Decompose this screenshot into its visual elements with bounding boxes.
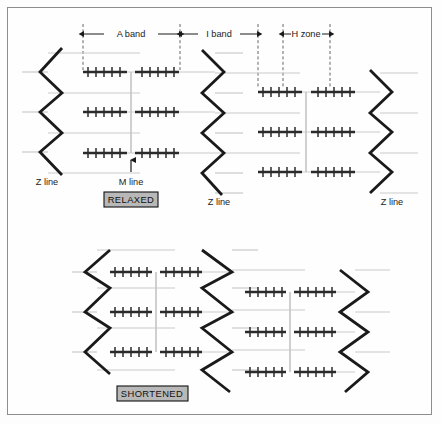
z-line-left-label: Z line	[36, 177, 58, 187]
state-badge-shortened: SHORTENED	[117, 386, 188, 401]
shortened-actin-s2	[232, 270, 390, 372]
z-line-right-shortened	[340, 270, 368, 392]
z-line-middle-label: Z line	[208, 197, 230, 207]
h-zone-label: H zone	[291, 29, 320, 39]
state-badge-relaxed-label: RELAXED	[108, 194, 155, 205]
m-line-label: M line	[119, 177, 144, 187]
sarcomere-diagram: A band I band H zone	[0, 0, 441, 424]
state-badge-shortened-label: SHORTENED	[121, 388, 183, 399]
relaxed-actin-filaments-s1	[22, 53, 243, 193]
a-band-label: A band	[117, 29, 146, 39]
i-band-label: I band	[206, 29, 232, 39]
band-labels: A band I band H zone	[84, 29, 329, 39]
z-line-middle-shortened	[202, 250, 232, 392]
z-line-right-label: Z line	[381, 197, 403, 207]
state-badge-relaxed: RELAXED	[104, 192, 158, 207]
sarcomere-figure: A band I band H zone	[0, 0, 441, 424]
